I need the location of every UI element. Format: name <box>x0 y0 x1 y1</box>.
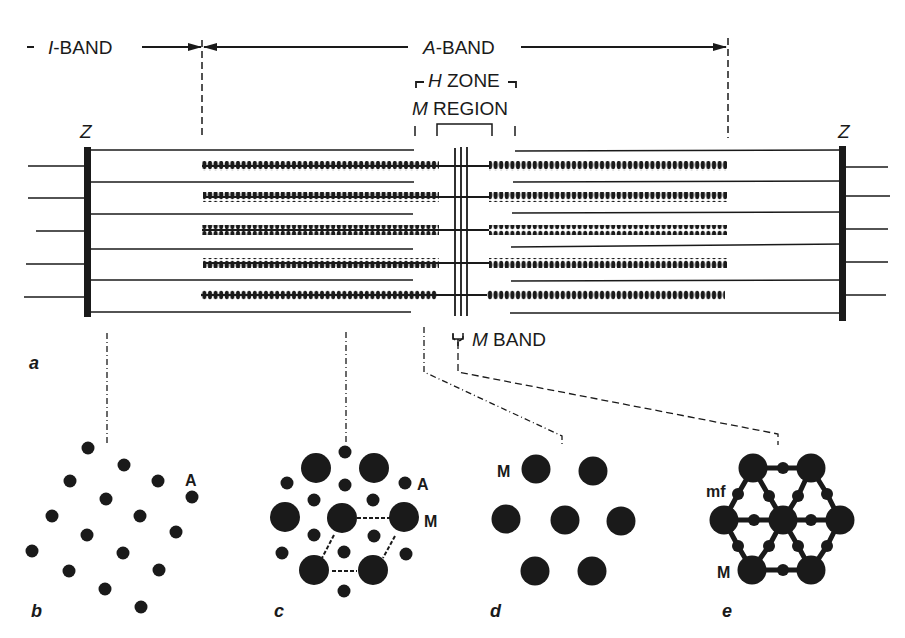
myosin-heads-right-2 <box>489 192 727 202</box>
panel-d-cross-section-h-zone: M d <box>490 455 636 622</box>
panel-c-cross-section-overlap: A M c <box>270 446 437 622</box>
panel-a-label: a <box>29 353 39 373</box>
panel-c-myosin-label: M <box>424 513 437 530</box>
m-band-bracket <box>453 333 463 346</box>
myosin-heads-left-4 <box>203 258 439 268</box>
z-line-left <box>84 147 91 317</box>
sarcomere-diagram: I-BAND A-BAND H ZONE M REGION Z Z <box>0 0 905 638</box>
m-band-label: M BAND <box>472 329 546 350</box>
myosin-heads-right-3 <box>489 225 727 235</box>
myosin-heads-right-4 <box>489 258 727 268</box>
panel-e-label: e <box>722 601 732 621</box>
panel-b-cross-section-i-band: A b <box>26 442 199 622</box>
h-zone-right-bracket <box>508 82 516 88</box>
section-e-leader <box>453 334 778 445</box>
panel-d-myosin-label: M <box>497 463 510 480</box>
myosin-heads-left-5 <box>201 290 437 300</box>
m-region-bracket <box>437 124 492 136</box>
panel-e-cross-section-m-band: mf M e <box>706 454 855 622</box>
panel-b-label: b <box>31 601 42 621</box>
z-line-right <box>839 146 846 321</box>
a-band-label: A-BAND <box>422 37 495 58</box>
myosin-heads-right-5 <box>487 290 725 300</box>
c-myosin-filaments <box>270 453 419 585</box>
z-line-right-label: Z <box>837 121 851 142</box>
i-band-label: I-BAND <box>48 37 112 58</box>
myosin-heads-left-2 <box>203 192 439 202</box>
h-zone-label: H ZONE <box>428 70 500 91</box>
m-region-label: M REGION <box>412 98 508 119</box>
h-zone-left-bracket <box>416 82 424 88</box>
m-band-lines <box>455 147 467 316</box>
section-leaders: a M BAND <box>29 327 778 446</box>
myosin-heads-right-1 <box>489 161 727 171</box>
panel-c-actin-label: A <box>417 476 429 493</box>
myosin-heads-left-3 <box>202 225 439 235</box>
panel-d-label: d <box>490 601 502 621</box>
myosin-heads-left-1 <box>202 161 439 171</box>
panel-e-mf-label: mf <box>706 483 726 500</box>
band-annotations: I-BAND A-BAND H ZONE M REGION Z Z <box>27 37 851 142</box>
panel-c-label: c <box>274 601 284 621</box>
panel-e-myosin-label: M <box>717 564 730 581</box>
z-line-left-label: Z <box>79 121 93 142</box>
panel-b-actin-label: A <box>185 472 197 489</box>
outer-thin-filaments <box>24 166 890 297</box>
sarcomere <box>24 146 890 321</box>
